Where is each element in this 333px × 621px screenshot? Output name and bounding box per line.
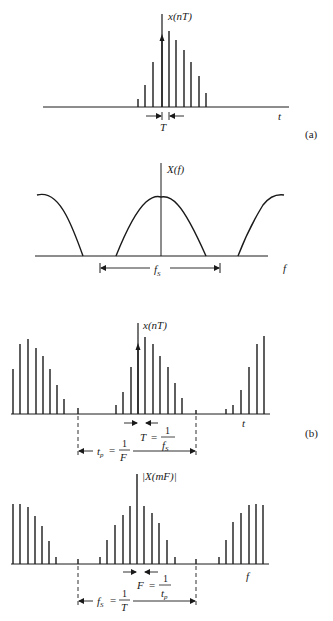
sample-stems <box>138 31 206 107</box>
panel-b-time-plot: x(nT) T = 1 fS t tp = 1 F (b) <box>11 319 318 463</box>
spacing-label-T: T <box>140 431 147 443</box>
ylabel-x-nT: x(nT) <box>142 319 167 332</box>
ylabel-X-mF: |X(mF)| <box>142 470 177 483</box>
fraction-denominator: tp <box>161 587 168 601</box>
panel-label-a: (a) <box>305 128 318 141</box>
panel-a-freq-plot: X(f) fS f <box>35 163 288 278</box>
sampling-diagram: x(nT) T t (a) X(f) fS f x(nT) T = <box>0 0 333 621</box>
ylabel-X-f: X(f) <box>166 163 184 176</box>
span-label-fs: fS <box>154 263 161 278</box>
ylabel-x-nT: x(nT) <box>167 10 192 23</box>
fraction-numerator: 1 <box>165 425 170 436</box>
fraction-numerator: 1 <box>122 588 127 599</box>
equals-sign: = <box>149 579 155 591</box>
xlabel-f: f <box>283 262 288 274</box>
fraction-denominator: F <box>119 451 127 463</box>
xlabel-t: t <box>278 110 282 122</box>
panel-label-b: (b) <box>305 427 318 440</box>
equals-sign: = <box>151 431 157 443</box>
xlabel-t: t <box>242 417 246 429</box>
spacing-label-T: T <box>160 121 167 133</box>
panel-b-freq-plot: |X(mF)| F = 1 tp f fS = 1 T <box>11 470 269 613</box>
spectrum-lines <box>13 474 263 564</box>
xlabel-f: f <box>246 570 251 582</box>
spacing-label-F: F <box>136 579 144 591</box>
spectrum-curve-right <box>238 195 284 256</box>
equals-sign: = <box>109 444 115 456</box>
fraction-numerator: 1 <box>163 573 168 584</box>
fraction-numerator: 1 <box>122 438 127 449</box>
equals-sign: = <box>110 594 116 606</box>
panel-a-time-plot: x(nT) T t (a) <box>43 10 318 141</box>
period-label-tp: tp <box>97 445 104 459</box>
fraction-denominator: T <box>121 601 128 613</box>
span-label-fs: fS <box>97 595 104 609</box>
spectrum-curve-left <box>37 194 83 256</box>
